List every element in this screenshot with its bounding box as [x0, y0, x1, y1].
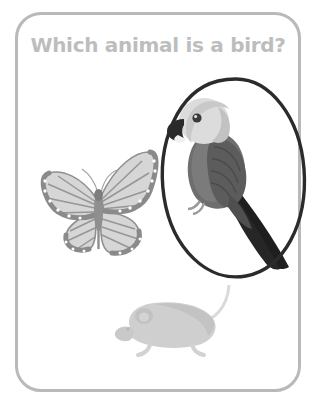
answer-option-butterfly[interactable]	[32, 149, 162, 261]
answer-option-mouse[interactable]	[106, 285, 236, 370]
quiz-card: Which animal is a bird?	[15, 12, 301, 392]
mouse-icon	[115, 285, 229, 355]
parrot-icon	[167, 98, 289, 270]
answer-option-parrot[interactable]	[156, 77, 296, 277]
answer-options-area	[18, 15, 298, 389]
animals-stage	[18, 15, 301, 392]
butterfly-icon	[43, 152, 157, 255]
